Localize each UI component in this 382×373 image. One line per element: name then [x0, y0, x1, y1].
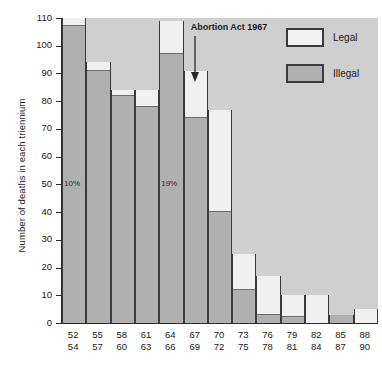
bar-segment-divider: [185, 117, 207, 118]
x-axis-label-70-72: 7072: [207, 329, 231, 352]
x-axis-label-line: 82: [304, 329, 328, 341]
bar-79-81[interactable]: [281, 295, 305, 323]
y-axis-tick-label: 110: [37, 12, 52, 23]
bar-segment-legal: [233, 254, 255, 290]
y-axis-tick-mark: [56, 212, 61, 213]
chart-root: Number of deaths in each triennium 01020…: [0, 0, 382, 373]
bar-52-54[interactable]: [62, 18, 86, 323]
x-axis-labels: 5254555758606163646667697072737576787981…: [61, 327, 377, 367]
bar-segment-legal: [257, 276, 279, 315]
x-axis-label-64-66: 6466: [158, 329, 182, 352]
x-axis-label-line: 64: [158, 329, 182, 341]
bar-segment-legal: [306, 295, 328, 323]
legend-swatch-illegal: [286, 64, 324, 83]
bar-segment-illegal: [63, 26, 85, 323]
y-axis-tick-mark: [56, 101, 61, 102]
y-axis-title: Number of deaths in each triennium: [16, 51, 27, 301]
x-axis-label-line: 88: [353, 329, 377, 341]
x-axis-label-line: 87: [328, 341, 352, 353]
x-axis-label-76-78: 7678: [255, 329, 279, 352]
y-axis-tick-label: 80: [41, 95, 52, 106]
legend-item-illegal[interactable]: Illegal: [286, 64, 359, 83]
annotation-percent-second: 19%: [161, 179, 177, 188]
bar-58-60[interactable]: [111, 90, 135, 323]
annotation-percent-first: 10%: [64, 179, 80, 188]
y-axis-tick-label: 50: [41, 178, 52, 189]
legend-swatch-legal: [286, 28, 324, 47]
y-axis-tick-mark: [56, 129, 61, 130]
bar-segment-illegal: [136, 107, 158, 323]
bar-segment-divider: [257, 314, 279, 315]
x-axis-label-line: 75: [231, 341, 255, 353]
bar-segment-divider: [63, 25, 85, 26]
bar-88-90[interactable]: [354, 309, 378, 323]
x-axis-label-line: 84: [304, 341, 328, 353]
bar-segment-legal: [355, 309, 377, 323]
y-axis-tick-mark: [56, 240, 61, 241]
x-axis-label-line: 76: [255, 329, 279, 341]
bar-segment-divider: [282, 316, 304, 317]
y-axis-tick-label: 30: [41, 233, 52, 244]
y-axis-tick-label: 0: [47, 317, 52, 328]
bar-70-72[interactable]: [208, 110, 232, 324]
bar-segment-legal: [209, 110, 231, 213]
bar-64-66[interactable]: [159, 21, 183, 323]
bar-segment-illegal: [330, 315, 352, 323]
y-axis-tick-mark: [56, 157, 61, 158]
bar-segment-divider: [112, 95, 134, 96]
bar-segment-legal: [160, 21, 182, 54]
annotation-arrow-down-icon: [188, 36, 202, 84]
x-axis-label-55-57: 5557: [85, 329, 109, 352]
bar-segment-legal: [282, 295, 304, 317]
x-axis-label-line: 54: [61, 341, 85, 353]
x-axis-label-line: 79: [280, 329, 304, 341]
x-axis-label-line: 58: [110, 329, 134, 341]
bar-67-69[interactable]: [184, 71, 208, 323]
y-axis-tick-mark: [56, 18, 61, 19]
x-axis-label-61-63: 6163: [134, 329, 158, 352]
bar-segment-legal: [136, 90, 158, 107]
y-axis-tick-mark: [56, 46, 61, 47]
y-axis-tick-label: 70: [41, 122, 52, 133]
bar-82-84[interactable]: [305, 295, 329, 323]
x-axis-label-67-69: 6769: [183, 329, 207, 352]
x-axis-label-line: 69: [183, 341, 207, 353]
bar-segment-illegal: [87, 71, 109, 323]
legend-label-legal: Legal: [333, 32, 357, 43]
bar-segment-divider: [209, 211, 231, 212]
bar-76-78[interactable]: [256, 276, 280, 323]
bar-segment-illegal: [209, 212, 231, 323]
x-axis-label-line: 70: [207, 329, 231, 341]
x-axis-label-73-75: 7375: [231, 329, 255, 352]
x-axis-label-79-81: 7981: [280, 329, 304, 352]
x-axis-label-line: 85: [328, 329, 352, 341]
x-axis-label-line: 57: [85, 341, 109, 353]
x-axis-label-line: 81: [280, 341, 304, 353]
x-axis-label-88-90: 8890: [353, 329, 377, 352]
bar-segment-illegal: [282, 317, 304, 323]
legend-label-illegal: Illegal: [333, 68, 359, 79]
bar-55-57[interactable]: [86, 62, 110, 323]
x-axis-label-line: 72: [207, 341, 231, 353]
bar-73-75[interactable]: [232, 254, 256, 323]
bar-segment-divider: [160, 53, 182, 54]
x-axis-label-58-60: 5860: [110, 329, 134, 352]
y-axis-tick-mark: [56, 295, 61, 296]
y-axis-tick-mark: [56, 184, 61, 185]
y-axis-tick-label: 40: [41, 206, 52, 217]
bar-61-63[interactable]: [135, 90, 159, 323]
bar-segment-divider: [233, 289, 255, 290]
x-axis-label-line: 60: [110, 341, 134, 353]
legend-item-legal[interactable]: Legal: [286, 28, 357, 47]
x-axis-label-line: 52: [61, 329, 85, 341]
x-axis-label-85-87: 8587: [328, 329, 352, 352]
bar-85-87[interactable]: [329, 315, 353, 323]
y-axis-tick-mark: [56, 73, 61, 74]
x-axis-label-line: 63: [134, 341, 158, 353]
y-axis-tick-label: 10: [41, 289, 52, 300]
y-axis-tick-label: 90: [41, 67, 52, 78]
x-axis-label-line: 61: [134, 329, 158, 341]
bar-segment-illegal: [112, 96, 134, 323]
x-axis-label-line: 73: [231, 329, 255, 341]
y-axis-tick-mark: [56, 323, 61, 324]
